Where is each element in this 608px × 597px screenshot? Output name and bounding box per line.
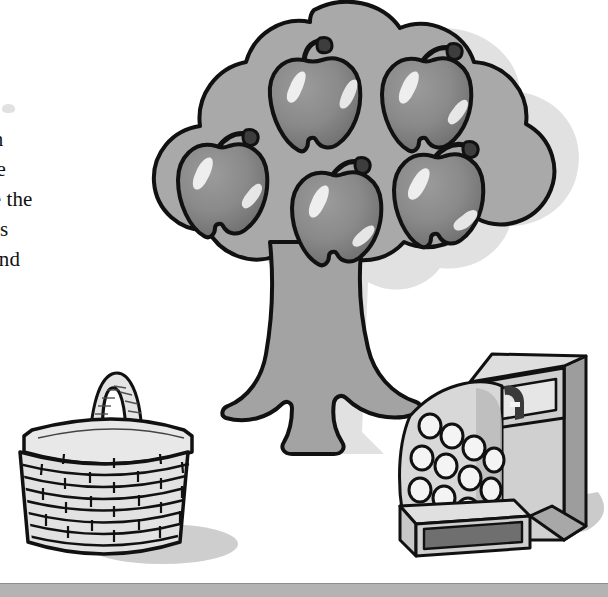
text-line: ach [0, 124, 94, 154]
register-key [484, 448, 504, 472]
register-key [459, 466, 481, 490]
text-line: nd [0, 274, 94, 304]
wicker-basket-illustration [2, 358, 232, 573]
register-key [435, 454, 457, 478]
register-key [409, 478, 431, 502]
basket-body [19, 452, 189, 554]
register-key [419, 414, 441, 438]
register-key [463, 436, 485, 460]
register-key [441, 424, 463, 448]
register-display-slot [510, 402, 520, 407]
illustration-page: ach tree ure the rees etend nd [0, 0, 608, 597]
cash-register-illustration [392, 340, 608, 565]
page-bottom-rule [0, 583, 608, 597]
page-smudge-mark [2, 104, 15, 113]
register-key [481, 478, 501, 502]
text-line: etend [0, 244, 94, 274]
text-line: tree [0, 154, 94, 184]
text-line: rees [0, 214, 94, 244]
register-right-side [564, 356, 586, 540]
text-line: ure the [0, 184, 94, 214]
register-key [411, 446, 433, 470]
body-text-column: ach tree ure the rees etend nd [0, 124, 94, 304]
